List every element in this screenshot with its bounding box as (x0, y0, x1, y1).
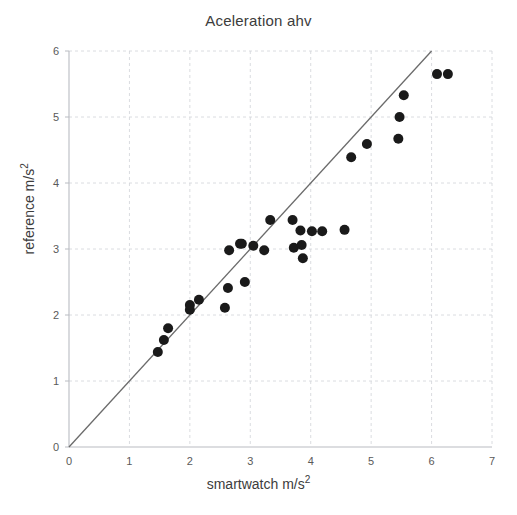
data-points (153, 69, 453, 357)
x-axis-ticks: 01234567 (66, 455, 495, 467)
y-axis-ticks: 0123456 (53, 45, 69, 453)
svg-text:6: 6 (429, 455, 435, 467)
svg-text:5: 5 (53, 111, 59, 123)
svg-text:2: 2 (187, 455, 193, 467)
chart-figure: Aceleration ahv reference m/s2 smartwatc… (0, 0, 517, 515)
grid-lines (69, 51, 492, 447)
svg-text:3: 3 (53, 243, 59, 255)
svg-text:4: 4 (308, 455, 314, 467)
svg-text:6: 6 (53, 45, 59, 57)
svg-text:5: 5 (368, 455, 374, 467)
svg-text:7: 7 (489, 455, 495, 467)
svg-text:0: 0 (66, 455, 72, 467)
scatter-plot-canvas: 01234567 0123456 (0, 0, 517, 515)
svg-text:3: 3 (247, 455, 253, 467)
svg-text:0: 0 (53, 441, 59, 453)
svg-text:2: 2 (53, 309, 59, 321)
svg-text:4: 4 (53, 177, 59, 189)
svg-text:1: 1 (53, 375, 59, 387)
svg-text:1: 1 (126, 455, 132, 467)
